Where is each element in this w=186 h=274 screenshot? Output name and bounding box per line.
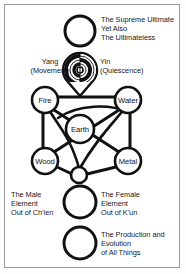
node-water: Water xyxy=(115,87,141,113)
union-small-circle xyxy=(71,167,87,183)
node-metal: Metal xyxy=(115,148,141,174)
five-phases-nodes: Fire Water Earth Wood Metal xyxy=(32,87,141,174)
node-fire: Fire xyxy=(32,87,58,113)
node-earth-label: Earth xyxy=(71,125,89,134)
caption-yin: Yin (Quiescence) xyxy=(100,57,143,75)
male-female-circle xyxy=(64,186,96,218)
node-earth: Earth xyxy=(66,115,94,143)
caption-production-evolution: The Production and Evolution of All Thin… xyxy=(101,230,165,258)
node-wood-label: Wood xyxy=(35,157,55,166)
link-wood-union xyxy=(57,167,72,174)
production-evolution-circle xyxy=(64,227,96,259)
link-metal-union xyxy=(87,167,116,174)
caption-supreme-ultimate: The Supreme Ultimate Yet Also The Ultima… xyxy=(101,15,174,43)
node-fire-label: Fire xyxy=(38,96,51,105)
taiji-diagram-figure: Fire Water Earth Wood Metal xyxy=(0,0,186,274)
taiji-funnel-connector xyxy=(68,82,92,96)
caption-male-element: The Male Element Out of Ch'ien xyxy=(11,190,53,218)
node-metal-label: Metal xyxy=(119,157,138,166)
caption-yang: Yang (Movement) xyxy=(27,57,73,75)
caption-female-element: The Female Element Out of K'un xyxy=(101,190,140,218)
node-wood: Wood xyxy=(32,148,58,174)
supreme-ultimate-circle xyxy=(65,16,95,46)
node-water-label: Water xyxy=(118,96,138,105)
